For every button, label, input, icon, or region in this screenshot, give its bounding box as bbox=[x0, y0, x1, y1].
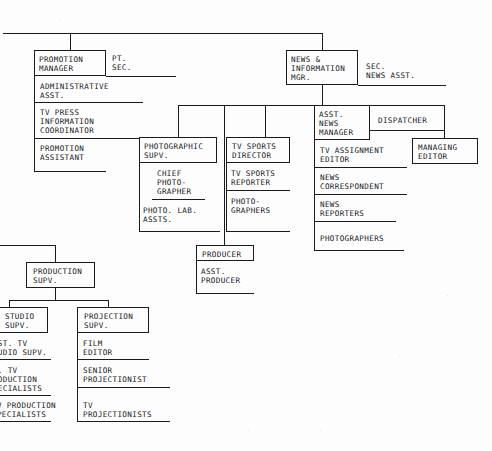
promotion-reports-spine bbox=[34, 76, 35, 171]
sports-reports-spine bbox=[226, 163, 227, 231]
promotion-report-1-rule bbox=[34, 138, 143, 139]
news-drop-line bbox=[322, 33, 323, 50]
promotion-manager-label: PROMOTION MANAGER bbox=[39, 55, 83, 73]
top-trunk-line bbox=[3, 33, 323, 34]
news-report-2: NEWS REPORTERS bbox=[320, 200, 364, 218]
scan-speck bbox=[447, 295, 448, 296]
promotion-manager-box: PROMOTION MANAGER bbox=[34, 50, 106, 76]
dispatcher-label: DISPATCHER bbox=[378, 116, 427, 125]
producer-label: PRODUCER bbox=[202, 250, 241, 259]
studio-report-2: TV PRODUCTION SPECIALISTS bbox=[0, 401, 56, 419]
managing-editor-label: MANAGING EDITOR bbox=[418, 143, 457, 161]
scan-speck bbox=[399, 355, 400, 356]
studio-report-1: SR. TV PRODUCTION SPECIALISTS bbox=[0, 366, 42, 393]
news-report-0: TV ASSIGNMENT EDITOR bbox=[320, 146, 384, 164]
promotion-report-2: PROMOTION ASSISTANT bbox=[40, 144, 84, 162]
photographic-lab-rule bbox=[139, 231, 220, 232]
asst-news-manager-box: ASST. NEWS MANAGER bbox=[314, 105, 370, 140]
projection-supv-label: PROJECTION SUPV. bbox=[84, 312, 133, 330]
news-report-1: NEWS CORRESPONDENT bbox=[320, 173, 384, 191]
production-supv-label: PRODUCTION SUPV. bbox=[33, 267, 82, 285]
photographic-supv-label: PHOTOGRAPHIC SUPV. bbox=[144, 142, 203, 160]
projection-report-0-rule bbox=[77, 359, 149, 360]
studio-supv-box: STUDIO SUPV. bbox=[0, 307, 48, 333]
news-manager-bus-drop bbox=[322, 85, 323, 105]
promotion-secretary-rule bbox=[106, 76, 176, 77]
promotion-report-1: TV PRESS INFORMATION COORDINATOR bbox=[40, 108, 94, 135]
sports-report-1-rule bbox=[226, 231, 290, 232]
studio-report-0-rule bbox=[0, 359, 51, 360]
sports-director-label: TV SPORTS DIRECTOR bbox=[232, 142, 276, 160]
production-feed-line bbox=[0, 245, 56, 246]
news-secretary-rule bbox=[358, 85, 446, 86]
photographic-drop-line bbox=[178, 105, 179, 137]
news-secretary-label: SEC. NEWS ASST. bbox=[366, 62, 415, 80]
managing-editor-feed-line bbox=[370, 105, 445, 106]
photographic-chief-label: CHIEF PHOTO- GRAPHER bbox=[157, 169, 191, 196]
studio-report-2-rule bbox=[0, 421, 51, 422]
promotion-report-2-rule bbox=[34, 171, 106, 172]
promotion-drop-line bbox=[70, 33, 71, 50]
photographic-lab-label: PHOTO. LAB. ASSTS. bbox=[143, 206, 197, 224]
promotion-report-0: ADMINISTRATIVE ASST. bbox=[40, 82, 109, 100]
photographic-chief-rule bbox=[152, 199, 205, 200]
managing-editor-drop-line bbox=[444, 105, 445, 138]
news-report-0-rule bbox=[314, 167, 407, 168]
news-report-2-rule bbox=[314, 221, 396, 222]
producer-assistant-rule bbox=[196, 293, 254, 294]
projection-report-2-rule bbox=[77, 421, 170, 422]
asst-news-manager-label: ASST. NEWS MANAGER bbox=[319, 110, 353, 137]
projection-drop-line bbox=[108, 300, 109, 307]
sports-report-0: TV SPORTS REPORTER bbox=[231, 169, 275, 187]
producer-reports-spine bbox=[196, 261, 197, 293]
producer-assistant-label: ASST. PRODUCER bbox=[201, 267, 240, 285]
promotion-secretary-label: PT. SEC. bbox=[112, 54, 132, 72]
sports-drop-line bbox=[265, 105, 266, 137]
news-report-1-rule bbox=[314, 194, 407, 195]
production-supv-box: PRODUCTION SUPV. bbox=[26, 262, 95, 288]
projection-report-1: SENIOR PROJECTIONIST bbox=[83, 366, 147, 384]
production-branch-bus bbox=[9, 300, 109, 301]
org-chart: PROMOTION MANAGER PT. SEC. ADMINISTRATIV… bbox=[0, 0, 492, 451]
scan-speck bbox=[248, 430, 249, 431]
news-manager-box: NEWS & INFORMATION MGR. bbox=[286, 50, 358, 85]
studio-report-1-rule bbox=[0, 395, 51, 396]
projection-report-1-rule bbox=[77, 387, 170, 388]
scan-speck bbox=[60, 20, 61, 21]
projection-supv-box: PROJECTION SUPV. bbox=[77, 307, 149, 333]
promotion-report-0-rule bbox=[34, 102, 143, 103]
managing-editor-box: MANAGING EDITOR bbox=[412, 138, 478, 164]
production-bus-drop bbox=[55, 288, 56, 300]
studio-report-0: ASST. TV STUDIO SUPV. bbox=[0, 339, 47, 357]
studio-drop-line bbox=[9, 300, 10, 307]
production-drop-line bbox=[55, 245, 56, 262]
sports-report-1: PHOTO- GRAPHERS bbox=[231, 197, 270, 215]
projection-report-2: TV PROJECTIONISTS bbox=[83, 401, 152, 419]
photographic-supv-box: PHOTOGRAPHIC SUPV. bbox=[139, 137, 217, 163]
news-branch-bus bbox=[178, 105, 323, 106]
news-manager-label: NEWS & INFORMATION MGR. bbox=[291, 55, 345, 82]
dispatcher-rule bbox=[370, 130, 444, 131]
sports-director-box: TV SPORTS DIRECTOR bbox=[226, 137, 290, 163]
photographic-reports-spine bbox=[139, 163, 140, 231]
studio-supv-label: STUDIO SUPV. bbox=[5, 312, 35, 330]
producer-box: PRODUCER bbox=[196, 245, 254, 261]
projection-reports-spine bbox=[77, 333, 78, 421]
projection-report-0: FILM EDITOR bbox=[83, 339, 113, 357]
news-report-3-rule bbox=[314, 250, 404, 251]
scan-speck bbox=[320, 430, 321, 431]
news-report-3: PHOTOGRAPHERS bbox=[320, 234, 384, 243]
sports-report-0-rule bbox=[226, 190, 290, 191]
